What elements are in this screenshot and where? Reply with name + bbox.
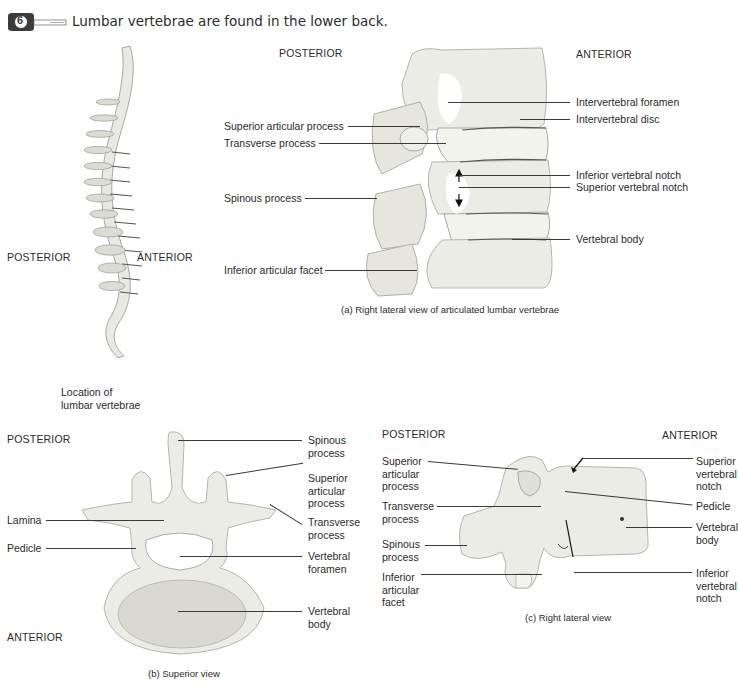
leader-line (46, 548, 136, 549)
leader-line (178, 611, 302, 612)
panel-a-posterior: POSTERIOR (279, 47, 343, 59)
label-a-superior-articular-process: Superior articular process (224, 120, 344, 133)
leader-line (46, 520, 164, 521)
panel-a-caption: (a) Right lateral view of articulated lu… (341, 304, 559, 315)
panel-c-posterior: POSTERIOR (382, 428, 446, 440)
notch-arrows (560, 445, 600, 505)
spine-anterior-label: ANTERIOR (137, 251, 193, 263)
panel-b-anterior: ANTERIOR (7, 631, 63, 643)
header-icon: 6 (6, 12, 68, 32)
label-c-spinous-process: Spinous process (382, 538, 438, 563)
leader-line (520, 119, 570, 120)
leader-line (448, 102, 570, 103)
label-c-inferior-vertebral-notch: Inferior vertebral notch (696, 567, 738, 605)
leader-line (421, 574, 542, 575)
label-b-pedicle: Pedicle (7, 542, 41, 555)
leader-line (178, 440, 302, 441)
label-b-transverse-process: Transverse process (308, 516, 368, 541)
label-a-vertebral-body: Vertebral body (576, 233, 644, 246)
panel-c-caption: (c) Right lateral view (525, 612, 611, 623)
icon-number: 6 (17, 14, 23, 26)
label-c-superior-vertebral-notch: Superior vertebral notch (696, 455, 738, 493)
leader-line (180, 556, 302, 557)
panel-c-anterior: ANTERIOR (662, 429, 718, 441)
label-a-inferior-vertebral-notch: Inferior vertebral notch (576, 169, 681, 182)
leader-line (348, 126, 420, 127)
leader-line (325, 270, 417, 271)
label-b-vertebral-foramen: Vertebral foramen (308, 550, 368, 575)
leader-line (459, 187, 570, 188)
label-c-pedicle: Pedicle (696, 500, 730, 513)
label-b-vertebral-body: Vertebral body (308, 605, 368, 630)
leader-line (512, 239, 570, 240)
label-c-vertebral-body: Vertebral body (696, 521, 738, 546)
leader-line (437, 506, 541, 507)
page-title: Lumbar vertebrae are found in the lower … (72, 13, 388, 29)
label-b-lamina: Lamina (7, 514, 41, 527)
label-a-spinous-process: Spinous process (224, 192, 302, 205)
spine-caption-1: Location of (61, 386, 112, 399)
label-a-superior-vertebral-notch: Superior vertebral notch (576, 181, 688, 194)
label-b-spinous-process: Spinous process (308, 434, 368, 459)
panel-b-posterior: POSTERIOR (7, 433, 71, 445)
leader-line (319, 143, 446, 144)
spine-illustration (60, 42, 180, 362)
leader-line (626, 527, 692, 528)
leader-line (574, 572, 692, 573)
label-c-inferior-articular-facet: Inferior articular facet (382, 571, 438, 609)
panel-b-caption: (b) Superior view (148, 668, 220, 679)
label-a-inferior-articular-facet: Inferior articular facet (224, 264, 323, 277)
label-b-superior-articular-process: Superior articular process (308, 472, 368, 510)
spine-caption-2: lumbar vertebrae (61, 399, 140, 412)
leader-line (425, 545, 467, 546)
label-a-transverse-process: Transverse process (224, 137, 316, 150)
label-a-intervertebral-foramen: Intervertebral foramen (576, 96, 679, 109)
articulated-vertebrae-illustration (362, 44, 602, 294)
spine-posterior-label: POSTERIOR (7, 251, 71, 263)
label-c-transverse-process: Transverse process (382, 500, 438, 525)
key-badge-icon (6, 12, 68, 32)
superior-view-illustration (80, 428, 280, 658)
leader-line (305, 198, 377, 199)
label-a-intervertebral-disc: Intervertebral disc (576, 113, 659, 126)
leader-line (459, 175, 570, 176)
